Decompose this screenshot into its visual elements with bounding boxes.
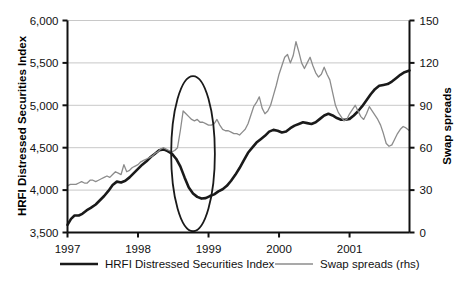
right-ytick-label: 30: [420, 184, 433, 196]
legend-label-swap-spreads: Swap spreads (rhs): [320, 258, 420, 270]
legend-label-hrfi-index: HRFI Distressed Securities Index: [105, 258, 275, 270]
left-ytick-label: 4,000: [30, 184, 59, 196]
chart-container: 3,5004,0004,5005,0005,5006,0000306090120…: [0, 0, 469, 286]
left-ytick-label: 5,500: [30, 57, 59, 69]
left-ytick-label: 4,500: [30, 142, 59, 154]
left-ytick-label: 6,000: [30, 15, 59, 27]
right-ytick-label: 0: [420, 227, 426, 239]
right-ytick-label: 60: [420, 142, 433, 154]
right-axis-title: Swap spreads: [441, 87, 453, 164]
xtick-label: 2001: [337, 243, 363, 255]
xtick-label: 1997: [55, 243, 81, 255]
chart-legend: HRFI Distressed Securities IndexSwap spr…: [60, 258, 420, 270]
left-axis-title: HRFI Distressed Securities Index: [16, 35, 28, 216]
xtick-label: 1999: [196, 243, 222, 255]
right-ytick-label: 120: [420, 57, 439, 69]
right-ytick-label: 90: [420, 100, 433, 112]
xtick-label: 2000: [266, 243, 292, 255]
xtick-label: 1998: [125, 243, 151, 255]
right-ytick-label: 150: [420, 15, 439, 27]
distressed-securities-swap-spreads-chart: 3,5004,0004,5005,0005,5006,0000306090120…: [0, 0, 469, 286]
left-ytick-label: 3,500: [30, 227, 59, 239]
left-ytick-label: 5,000: [30, 100, 59, 112]
